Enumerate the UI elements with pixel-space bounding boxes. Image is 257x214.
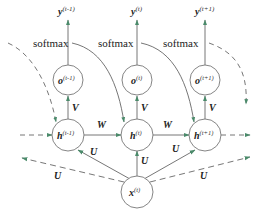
v-label-1: V [72,102,80,113]
y-label-t-minus-1: y(t-1) [57,5,76,17]
v-label-3: V [209,102,217,113]
u-label-left-solid: U [90,146,98,157]
y-label-t-plus-1: y(t+1) [194,5,215,17]
u-label-left-dashed: U [54,170,62,181]
w-label-1: W [97,119,107,130]
w-label-2: W [163,119,173,130]
u-label-right-solid: U [172,143,180,154]
y-label-t: y(t) [130,5,143,17]
softmax-label-1: softmax [33,37,69,49]
softmax-label-2: softmax [98,37,134,49]
v-label-2: V [141,102,149,113]
u-label-right-dashed: U [200,170,208,181]
u-label-center: U [141,155,149,166]
rnn-diagram: y(t-1) y(t) y(t+1) softmax softmax softm… [0,0,257,214]
softmax-label-3: softmax [163,37,199,49]
